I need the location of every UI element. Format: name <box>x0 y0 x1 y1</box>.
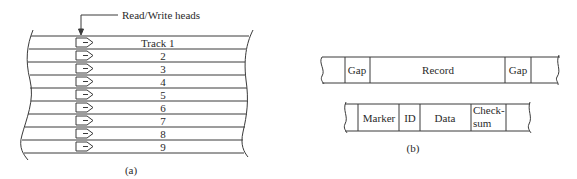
checksum-label-line2: sum <box>473 117 491 129</box>
track-label: 9 <box>160 141 166 153</box>
track-label: 6 <box>160 102 166 114</box>
data-label: Data <box>435 112 456 124</box>
diagram-canvas <box>0 0 577 179</box>
read-write-head-icon <box>76 51 93 60</box>
gap-label: Gap <box>509 64 527 76</box>
track-label: 8 <box>160 128 166 140</box>
track-lines <box>22 36 249 153</box>
figure-a-caption: (a) <box>125 164 137 176</box>
track-label: 7 <box>160 115 166 127</box>
track-label: 3 <box>160 63 166 75</box>
track-label: 2 <box>160 50 166 62</box>
read-write-head-icon <box>76 77 93 86</box>
track-label: 5 <box>160 89 166 101</box>
track-label: 4 <box>160 76 166 88</box>
checksum-label-line1: Check- <box>473 104 505 116</box>
read-write-head-icon <box>76 103 93 112</box>
read-write-heads-label: Read/Write heads <box>122 9 200 21</box>
read-write-head-icon <box>76 142 93 151</box>
record-label: Record <box>422 64 454 76</box>
figure-b-caption: (b) <box>407 142 420 154</box>
id-label: ID <box>404 112 416 124</box>
read-write-heads <box>76 38 93 151</box>
track-label: Track 1 <box>141 37 175 49</box>
read-write-head-icon <box>76 64 93 73</box>
read-write-head-icon <box>76 116 93 125</box>
gap-label: Gap <box>348 64 366 76</box>
read-write-head-icon <box>76 129 93 138</box>
read-write-head-icon <box>76 38 93 47</box>
read-write-head-icon <box>76 90 93 99</box>
marker-label: Marker <box>363 112 395 124</box>
pointer-arrow-icon <box>79 15 119 35</box>
